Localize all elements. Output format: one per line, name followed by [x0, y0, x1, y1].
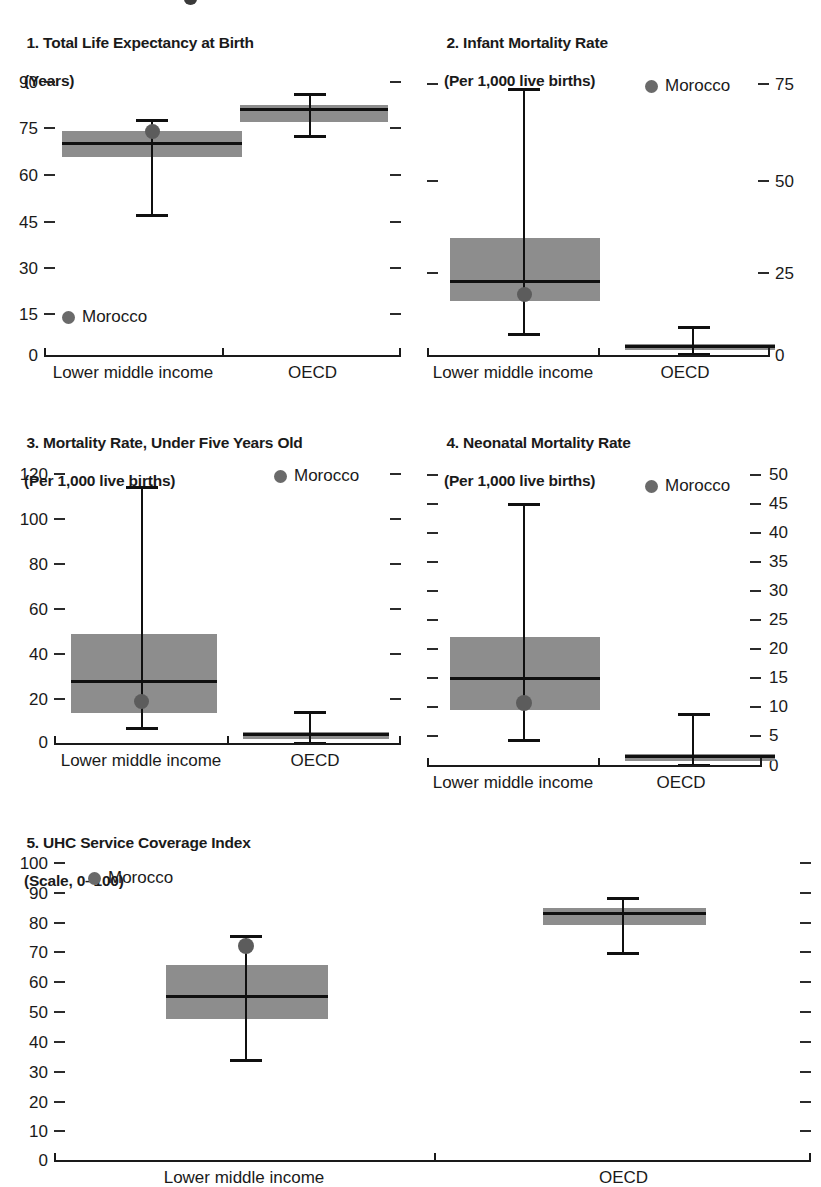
panel-5-category-lmi: Lower middle income — [54, 1168, 434, 1187]
panel-2-infant-mortality: 2. Infant Mortality Rate (Per 1,000 live… — [420, 14, 821, 410]
panel-3-right-tick-40 — [390, 653, 401, 655]
panel-5-whisker-cap-low-oecd — [607, 952, 639, 955]
panel-5-legend: Morocco — [88, 868, 173, 888]
panel-1-ytick-90: 90 — [0, 74, 38, 91]
panel-1-ytick-mark-45 — [44, 221, 55, 223]
panel-4-xaxis-right-cap — [760, 758, 762, 767]
panel-4-ytick-5: 5 — [769, 727, 778, 744]
panel-3-median-lmi — [71, 680, 217, 683]
panel-4-plot: 50 45 40 35 30 25 20 15 10 5 0 Morocco L… — [420, 414, 821, 810]
panel-4-left-tick-15 — [427, 677, 438, 679]
panel-3-ytick-60: 60 — [0, 601, 48, 618]
panel-5-median-lmi — [166, 995, 328, 998]
panel-5-morocco-marker — [238, 938, 254, 954]
panel-2-left-tick-25 — [427, 272, 438, 274]
panel-1-whisker-cap-low-lmi — [136, 214, 168, 217]
panel-4-right-tick-50 — [750, 474, 761, 476]
panel-4-right-tick-10 — [750, 706, 761, 708]
panel-5-whisker-lmi — [245, 935, 247, 1062]
panel-3-right-tick-80 — [390, 563, 401, 565]
panel-3-legend-label: Morocco — [294, 466, 359, 486]
panel-5-right-tick-70 — [800, 951, 811, 953]
panel-4-right-tick-25 — [750, 619, 761, 621]
panel-4-right-tick-35 — [750, 561, 761, 563]
panel-5-xaxis-mid-tick — [434, 1153, 436, 1162]
panel-4-legend-label: Morocco — [665, 476, 730, 496]
panel-5-uhc-coverage: 5. UHC Service Coverage Index (Scale, 0–… — [0, 814, 821, 1172]
panel-5-ytick-mark-60 — [54, 981, 65, 983]
panel-5-ytick-30: 30 — [0, 1064, 48, 1081]
panel-1-morocco-marker — [145, 124, 160, 139]
panel-2-right-tick-50 — [758, 180, 769, 182]
panel-5-ytick-10: 10 — [0, 1123, 48, 1140]
panel-4-ytick-45: 45 — [769, 495, 788, 512]
panel-2-ytick-25: 25 — [775, 265, 794, 282]
panel-2-legend: Morocco — [645, 76, 730, 96]
panel-4-left-tick-50 — [427, 474, 438, 476]
panel-3-whisker-oecd — [309, 711, 311, 745]
panel-3-right-tick-100 — [390, 518, 401, 520]
panel-4-ytick-15: 15 — [769, 669, 788, 686]
panel-2-left-tick-75 — [427, 83, 438, 85]
panel-4-left-tick-40 — [427, 532, 438, 534]
panel-2-xaxis-left-cap — [427, 348, 429, 357]
panel-5-ytick-0: 0 — [0, 1152, 48, 1169]
panel-3-xaxis-mid-tick — [227, 736, 229, 745]
panel-1-ytick-mark-60 — [44, 174, 55, 176]
panel-4-right-tick-5 — [750, 735, 761, 737]
panel-2-xaxis-mid-tick — [598, 348, 600, 357]
panel-1-ytick-60: 60 — [0, 167, 38, 184]
panel-5-ytick-mark-80 — [54, 922, 65, 924]
panel-5-right-tick-90 — [800, 892, 811, 894]
clipped-artifact-top — [184, 0, 197, 5]
panel-5-right-tick-10 — [800, 1130, 811, 1132]
panel-3-xaxis-right-cap — [399, 736, 401, 745]
panel-2-whisker-cap-high-lmi — [508, 88, 540, 91]
panel-4-ytick-30: 30 — [769, 582, 788, 599]
panel-2-category-oecd: OECD — [600, 363, 770, 383]
panel-5-ytick-60: 60 — [0, 974, 48, 991]
panel-5-ytick-mark-90 — [54, 892, 65, 894]
panel-5-category-oecd: OECD — [436, 1168, 811, 1187]
morocco-marker-icon — [645, 480, 658, 493]
panel-1-median-oecd — [240, 108, 388, 111]
panel-2-morocco-marker — [517, 287, 532, 302]
panel-4-right-tick-30 — [750, 590, 761, 592]
panel-5-box-oecd — [543, 908, 706, 925]
panel-3-ytick-40: 40 — [0, 646, 48, 663]
panel-5-right-tick-100 — [800, 862, 811, 864]
panel-5-right-tick-40 — [800, 1041, 811, 1043]
panel-5-whisker-cap-low-lmi — [230, 1059, 262, 1062]
panel-3-ytick-100: 100 — [0, 511, 48, 528]
panel-2-plot: 75 50 25 0 Morocco Lower middle income O… — [420, 14, 821, 410]
panel-5-ytick-mark-30 — [54, 1071, 65, 1073]
panel-3-ytick-mark-20 — [54, 698, 65, 700]
panel-3-ytick-mark-100 — [54, 518, 65, 520]
panel-3-legend: Morocco — [274, 466, 359, 486]
panel-4-left-tick-45 — [427, 503, 438, 505]
panel-4-whisker-oecd — [692, 713, 694, 767]
panel-1-xaxis-right-cap — [399, 348, 401, 357]
panel-2-left-tick-50 — [427, 180, 438, 182]
panel-1-category-oecd: OECD — [224, 363, 401, 383]
panel-5-ytick-100: 100 — [0, 855, 48, 872]
panel-5-ytick-40: 40 — [0, 1034, 48, 1051]
panel-1-ytick-75: 75 — [0, 120, 38, 137]
panel-5-ytick-mark-70 — [54, 951, 65, 953]
panel-5-xaxis-right-cap — [809, 1153, 811, 1162]
panel-4-ytick-35: 35 — [769, 553, 788, 570]
panel-4-right-tick-15 — [750, 677, 761, 679]
panel-4-neonatal-mortality: 4. Neonatal Mortality Rate (Per 1,000 li… — [420, 414, 821, 810]
panel-1-right-tick-90 — [390, 81, 401, 83]
panel-1-ytick-15: 15 — [0, 306, 38, 323]
panel-1-ytick-30: 30 — [0, 260, 38, 277]
panel-3-category-lmi: Lower middle income — [54, 751, 228, 771]
panel-1-whisker-cap-high-lmi — [136, 119, 168, 122]
panel-4-median-lmi — [450, 677, 600, 680]
panel-5-ytick-mark-40 — [54, 1041, 65, 1043]
panel-2-ytick-0: 0 — [775, 347, 784, 364]
panel-3-right-tick-120 — [390, 473, 401, 475]
panel-5-xaxis — [54, 1160, 811, 1162]
panel-1-ytick-0: 0 — [0, 347, 38, 364]
panel-5-right-tick-30 — [800, 1071, 811, 1073]
